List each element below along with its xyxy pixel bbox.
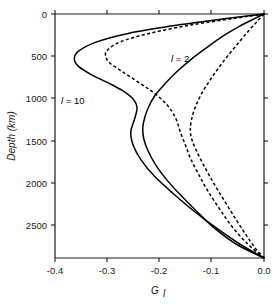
x-axis-title-base: G	[151, 285, 159, 296]
annotation-l2-text: l = 2	[171, 53, 189, 64]
y-tick-label: 500	[31, 51, 47, 62]
depth-vs-gl-plot: 0 500 1000 1500 2000 2500 -0.4 -0.3 -0.2…	[0, 0, 280, 305]
curve-l2-solid	[143, 14, 264, 258]
curve-l10-dashed	[105, 14, 264, 258]
y-tick-label: 1500	[26, 136, 47, 147]
y-tick-label: 2500	[26, 220, 47, 231]
curves-group	[74, 14, 264, 258]
annotation-l2-value: = 2	[173, 53, 189, 64]
x-axis-title-subscript: l	[163, 288, 166, 299]
y-axis-title: Depth (km)	[6, 111, 17, 160]
curve-l10-solid	[74, 14, 264, 258]
x-tick-labels: -0.4 -0.3 -0.2 -0.1 0.0	[47, 265, 271, 276]
x-tick-label: -0.2	[151, 265, 167, 276]
y-tick-labels: 0 500 1000 1500 2000 2500	[26, 9, 47, 231]
annotation-l10: l = 10	[61, 95, 85, 106]
x-tick-label: -0.3	[99, 265, 115, 276]
curve-l2-dashed	[190, 14, 264, 258]
figure-container: 0 500 1000 1500 2000 2500 -0.4 -0.3 -0.2…	[0, 0, 280, 305]
annotation-l2: l = 2	[171, 53, 189, 64]
y-tick-label: 0	[42, 9, 47, 20]
annotation-l10-value: = 10	[63, 95, 84, 106]
x-tick-label: 0.0	[257, 265, 270, 276]
x-axis-title: G l	[151, 285, 166, 299]
y-tick-label: 2000	[26, 178, 47, 189]
annotation-l10-text: l = 10	[61, 95, 85, 106]
x-tick-label: -0.1	[203, 265, 219, 276]
y-tick-label: 1000	[26, 93, 47, 104]
axes-frame	[55, 14, 264, 258]
x-tick-label: -0.4	[47, 265, 63, 276]
